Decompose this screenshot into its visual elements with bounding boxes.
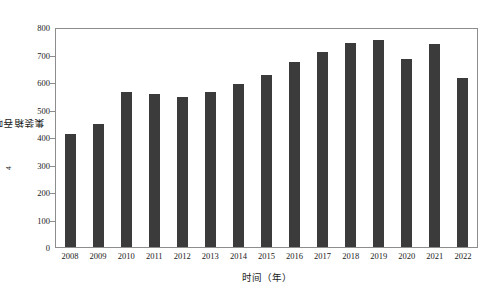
x-axis-tick-label: 2018 — [337, 252, 365, 261]
y-axis-tick-label: 200 — [8, 189, 50, 198]
bar-slot[interactable] — [365, 29, 393, 247]
bar-2010[interactable] — [121, 92, 132, 247]
x-axis-tick-label: 2015 — [252, 252, 280, 261]
bar-slot[interactable] — [140, 29, 168, 247]
y-axis-tick-label: 400 — [8, 134, 50, 143]
x-axis-tick-label: 2016 — [281, 252, 309, 261]
bar-2018[interactable] — [345, 43, 356, 247]
bar-2020[interactable] — [401, 59, 412, 247]
bar-slot[interactable] — [84, 29, 112, 247]
bar-2011[interactable] — [149, 94, 160, 247]
bar-2021[interactable] — [429, 44, 440, 247]
bar-2016[interactable] — [289, 62, 300, 247]
x-axis-tick-label: 2022 — [449, 252, 477, 261]
x-axis-tick-label: 2010 — [112, 252, 140, 261]
bar-slot[interactable] — [281, 29, 309, 247]
x-axis-tick-label: 2019 — [365, 252, 393, 261]
bar-slot[interactable] — [168, 29, 196, 247]
x-axis-tick-labels: 2008200920102011201220132014201520162017… — [56, 252, 477, 261]
bar-slot[interactable] — [393, 29, 421, 247]
x-axis-tick-label: 2017 — [309, 252, 337, 261]
bar-slot[interactable] — [112, 29, 140, 247]
x-axis-tick-label: 2009 — [84, 252, 112, 261]
y-axis-title-text: 集装箱吞吐量（×104t） — [0, 78, 31, 170]
bar-2012[interactable] — [177, 97, 188, 247]
x-axis-tick-label: 2008 — [56, 252, 84, 261]
bar-slot[interactable] — [421, 29, 449, 247]
bar-chart-figure: 集装箱吞吐量（×104t） 0100200300400500600700800 … — [0, 0, 498, 295]
y-axis-tick-label: 500 — [8, 106, 50, 115]
y-axis-tick-label: 700 — [8, 51, 50, 60]
y-axis-title-main: 集装箱吞吐量（×10 — [0, 117, 44, 131]
bar-slot[interactable] — [196, 29, 224, 247]
x-axis-tick-label: 2012 — [168, 252, 196, 261]
x-axis-tick-label: 2011 — [140, 252, 168, 261]
y-axis-title: 集装箱吞吐量（×104t） — [0, 0, 22, 248]
bar-slot[interactable] — [309, 29, 337, 247]
y-axis-tick-label: 600 — [8, 79, 50, 88]
bar-2013[interactable] — [205, 92, 216, 247]
bar-2014[interactable] — [233, 84, 244, 247]
x-axis-tick-label: 2021 — [421, 252, 449, 261]
x-axis-tick-label: 2014 — [224, 252, 252, 261]
bar-slot[interactable] — [337, 29, 365, 247]
bar-2017[interactable] — [317, 52, 328, 247]
bar-slot[interactable] — [449, 29, 477, 247]
bars-layer — [56, 29, 477, 247]
bar-2009[interactable] — [93, 124, 104, 247]
x-axis-tick-label: 2020 — [393, 252, 421, 261]
bar-2019[interactable] — [373, 40, 384, 247]
y-axis-tick-label: 100 — [8, 216, 50, 225]
bar-2022[interactable] — [457, 78, 468, 247]
bar-2008[interactable] — [65, 134, 76, 247]
x-axis-title: 时间（年） — [56, 270, 477, 284]
y-axis-tick-label: 800 — [8, 24, 50, 33]
y-axis-tick-label: 0 — [8, 244, 50, 253]
y-axis-tick-label: 300 — [8, 161, 50, 170]
bar-slot[interactable] — [252, 29, 280, 247]
bar-slot[interactable] — [56, 29, 84, 247]
x-axis-tick-label: 2013 — [196, 252, 224, 261]
bar-2015[interactable] — [261, 75, 272, 247]
bar-slot[interactable] — [224, 29, 252, 247]
